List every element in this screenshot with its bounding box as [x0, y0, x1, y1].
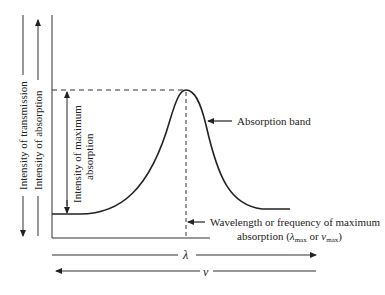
y-label-absorption: Intensity of absorption: [32, 90, 44, 190]
x-label-nu: ν: [203, 265, 209, 279]
absorption-band-label: Absorption band: [237, 115, 311, 127]
absorption-diagram: Intensity of transmission Intensity of a…: [0, 0, 385, 295]
max-absorption-label-line1: Intensity of maximum: [71, 105, 83, 203]
wavelength-label-line1: Wavelength or frequency of maximum: [210, 216, 381, 228]
wavelength-label-line2: absorption (λmax or νmax): [237, 230, 342, 244]
y-label-transmission: Intensity of transmission: [17, 81, 29, 190]
max-absorption-label-line2: absorption: [83, 133, 95, 180]
x-label-lambda: λ: [182, 248, 188, 262]
